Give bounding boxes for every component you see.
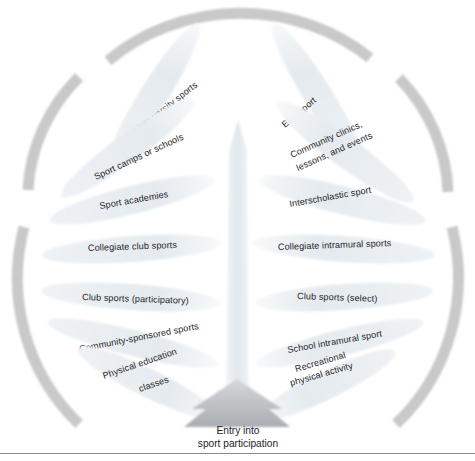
leaf-club-sports-participatory[interactable]: Club sports (participatory): [40, 278, 221, 316]
leaf-club-sports-select[interactable]: Club sports (select): [254, 278, 433, 316]
diagram-canvas: Collegiate varsity sports Sport camps or…: [0, 0, 475, 461]
leaf-sport-academies[interactable]: Sport academies: [46, 166, 218, 234]
sport-participation-diagram: Collegiate varsity sports Sport camps or…: [0, 0, 475, 461]
leaf-collegiate-club-sports[interactable]: Collegiate club sports: [41, 230, 222, 268]
trunk-stem: [226, 120, 249, 392]
entry-caption-line2: sport participation: [198, 438, 278, 449]
central-trunk: [226, 120, 249, 392]
leaf-collegiate-intramural-sports[interactable]: Collegiate intramural sports: [252, 230, 435, 269]
right-branches: Elite sport Community clinics, lessons, …: [252, 16, 435, 431]
left-branches: Collegiate varsity sports Sport camps or…: [40, 16, 224, 429]
arc-upper-right: [399, 78, 448, 192]
arc-upper-left: [28, 77, 79, 190]
arc-top: [108, 13, 370, 61]
entry-caption-line1: Entry into: [216, 425, 259, 436]
entry-caption: Entry into sport participation: [198, 425, 278, 449]
bottom-divider: [0, 453, 475, 454]
